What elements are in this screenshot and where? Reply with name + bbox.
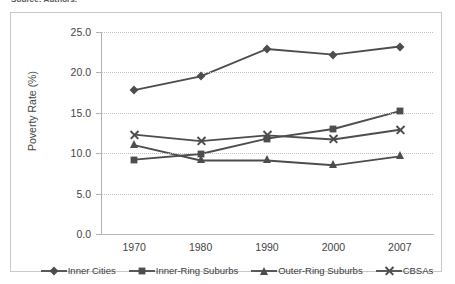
- data-point-outer-ring-suburbs-2007[interactable]: [396, 152, 404, 160]
- x-tick-label-2007: 2007: [370, 241, 430, 253]
- legend-item-inner-ring-suburbs[interactable]: Inner-Ring Suburbs: [129, 265, 238, 276]
- x-tick-label-1970: 1970: [104, 241, 164, 253]
- gridline-10.0: [101, 153, 433, 154]
- cross-marker-icon: [197, 137, 205, 145]
- gridline-0.0: [101, 234, 433, 235]
- legend-label: Outer-Ring Suburbs: [278, 265, 362, 276]
- y-tick-label-0.0: 0.0: [45, 228, 91, 240]
- triangle-marker-icon: [197, 155, 205, 163]
- data-point-outer-ring-suburbs-2000[interactable]: [329, 161, 337, 169]
- x-tick-label-2000: 2000: [303, 241, 363, 253]
- chart-frame: Poverty Rate (%) 0.05.010.015.020.025.0 …: [10, 12, 442, 272]
- gridline-25.0: [101, 32, 433, 33]
- cross-marker-icon: [329, 135, 337, 143]
- source-note: Source: Authors.: [11, 0, 77, 4]
- y-tick-label-25.0: 25.0: [45, 26, 91, 38]
- x-tick-label-1980: 1980: [171, 241, 231, 253]
- data-point-outer-ring-suburbs-1990[interactable]: [263, 156, 271, 164]
- data-point-cbsas-2007[interactable]: [396, 126, 404, 134]
- triangle-marker-icon: [396, 151, 404, 159]
- cross-marker-icon: [385, 267, 393, 275]
- square-marker-icon: [131, 156, 138, 163]
- data-point-inner-ring-suburbs-2007[interactable]: [396, 107, 404, 115]
- data-point-cbsas-2000[interactable]: [329, 135, 337, 143]
- gridline-15.0: [101, 113, 433, 114]
- legend-label: Inner Cities: [68, 265, 116, 276]
- triangle-marker-icon: [263, 155, 271, 163]
- legend-item-outer-ring-suburbs[interactable]: Outer-Ring Suburbs: [251, 265, 362, 276]
- chart-legend: Inner CitiesInner-Ring SuburbsOuter-Ring…: [21, 265, 453, 276]
- legend-item-cbsas[interactable]: CBSAs: [376, 265, 434, 276]
- gridline-5.0: [101, 194, 433, 195]
- diamond-marker-icon: [49, 266, 58, 275]
- y-tick-mark: [96, 153, 101, 154]
- diamond-marker-icon: [395, 42, 404, 51]
- data-point-inner-cities-1990[interactable]: [263, 45, 271, 53]
- data-point-cbsas-1970[interactable]: [130, 131, 138, 139]
- data-point-inner-cities-1980[interactable]: [197, 72, 205, 80]
- legend-swatch-triangle: [251, 266, 277, 276]
- x-tick-label-1990: 1990: [237, 241, 297, 253]
- data-point-inner-cities-2000[interactable]: [329, 51, 337, 59]
- data-point-outer-ring-suburbs-1970[interactable]: [130, 141, 138, 149]
- y-tick-mark: [96, 32, 101, 33]
- y-tick-label-15.0: 15.0: [45, 107, 91, 119]
- data-point-cbsas-1990[interactable]: [263, 131, 271, 139]
- data-point-inner-cities-2007[interactable]: [396, 43, 404, 51]
- y-tick-mark: [96, 234, 101, 235]
- cross-marker-icon: [263, 131, 271, 139]
- square-marker-icon: [330, 126, 337, 133]
- data-point-inner-cities-1970[interactable]: [130, 86, 138, 94]
- data-point-outer-ring-suburbs-1980[interactable]: [197, 156, 205, 164]
- data-point-inner-ring-suburbs-1970[interactable]: [130, 156, 138, 164]
- square-marker-icon: [138, 267, 145, 274]
- data-point-inner-ring-suburbs-2000[interactable]: [329, 125, 337, 133]
- legend-label: CBSAs: [403, 265, 434, 276]
- y-tick-label-5.0: 5.0: [45, 188, 91, 200]
- plot-area: [101, 32, 433, 234]
- triangle-marker-icon: [329, 160, 337, 168]
- cross-marker-icon: [130, 131, 138, 139]
- y-tick-mark: [96, 194, 101, 195]
- y-axis-tick-labels: 0.05.010.015.020.025.0: [45, 13, 91, 284]
- data-point-cbsas-1980[interactable]: [197, 137, 205, 145]
- legend-swatch-diamond: [41, 266, 67, 276]
- diamond-marker-icon: [130, 86, 139, 95]
- cross-marker-icon: [396, 126, 404, 134]
- triangle-marker-icon: [260, 267, 268, 275]
- diamond-marker-icon: [263, 45, 272, 54]
- gridline-20.0: [101, 72, 433, 73]
- y-tick-mark: [96, 72, 101, 73]
- y-axis-title: Poverty Rate (%): [26, 51, 38, 171]
- square-marker-icon: [396, 108, 403, 115]
- legend-label: Inner-Ring Suburbs: [156, 265, 238, 276]
- legend-swatch-square: [129, 266, 155, 276]
- y-tick-label-20.0: 20.0: [45, 66, 91, 78]
- y-tick-label-10.0: 10.0: [45, 147, 91, 159]
- y-tick-mark: [96, 113, 101, 114]
- diamond-marker-icon: [196, 72, 205, 81]
- triangle-marker-icon: [130, 140, 138, 148]
- legend-item-inner-cities[interactable]: Inner Cities: [41, 265, 116, 276]
- legend-swatch-cross: [376, 266, 402, 276]
- diamond-marker-icon: [329, 50, 338, 59]
